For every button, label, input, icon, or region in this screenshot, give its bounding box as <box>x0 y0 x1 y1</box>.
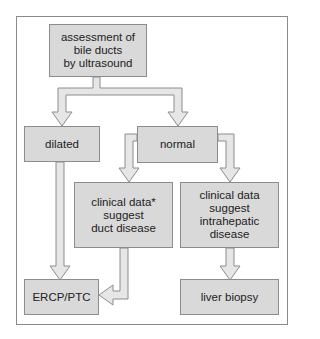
arrow-normal-to-clinical-duct <box>119 134 139 182</box>
arrow-clinical-duct-to-ercp <box>99 248 128 305</box>
node-normal-label: normal <box>160 138 195 151</box>
arrow-dilated-to-ercp <box>50 162 70 280</box>
node-ercp-label: ERCP/PTC <box>32 291 90 304</box>
node-clinical-duct-label: clinical data* suggest duct disease <box>91 196 156 235</box>
arrow-clinical-intrahepatic-to-biopsy <box>220 248 240 280</box>
node-assessment-label: assessment of bile ducts by ultrasound <box>61 31 135 70</box>
node-dilated-label: dilated <box>45 138 79 151</box>
node-liver-biopsy: liver biopsy <box>180 279 279 315</box>
arrow-normal-to-clinical-intrahepatic <box>218 134 240 182</box>
arrow-assessment-branches <box>52 77 188 126</box>
node-dilated: dilated <box>24 126 100 162</box>
node-ercp: ERCP/PTC <box>24 279 99 315</box>
node-assessment: assessment of bile ducts by ultrasound <box>49 24 147 77</box>
node-liver-biopsy-label: liver biopsy <box>201 291 259 304</box>
node-clinical-duct: clinical data* suggest duct disease <box>74 182 173 248</box>
node-clinical-intrahepatic-label: clinical data suggest intrahepatic disea… <box>199 189 259 241</box>
node-clinical-intrahepatic: clinical data suggest intrahepatic disea… <box>180 182 279 248</box>
node-normal: normal <box>137 126 218 163</box>
